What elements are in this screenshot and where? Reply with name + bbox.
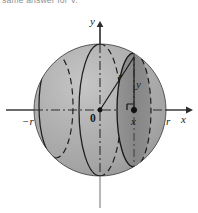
abscissa-x-label: x <box>131 116 136 127</box>
point-on-axis-dot <box>131 107 137 113</box>
figure-root: same answer for V. <box>0 0 198 213</box>
origin-dot <box>98 108 103 113</box>
x-axis-arrowhead <box>186 106 193 113</box>
tick-label-negative-r: −r <box>22 116 34 127</box>
y-axis-label: y <box>90 16 95 27</box>
tick-label-positive-r: r <box>166 116 170 127</box>
height-y-label: y <box>136 79 141 90</box>
sphere-diagram <box>0 0 198 213</box>
y-axis-arrowhead <box>97 21 104 27</box>
radius-label: r <box>118 71 122 82</box>
tick-label-origin: 0 <box>90 113 96 125</box>
x-axis-label: x <box>181 114 186 125</box>
